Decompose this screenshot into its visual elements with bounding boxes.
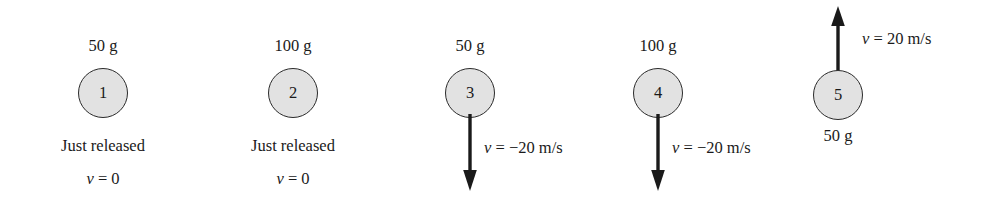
mass-label-2: 100 g <box>274 38 311 55</box>
mass-label-1: 50 g <box>89 38 118 55</box>
velocity-label-1: v = 0 <box>86 171 119 188</box>
ball-circle-5: 5 <box>813 70 863 120</box>
velocity-label-2: v = 0 <box>276 171 309 188</box>
status-label-1: Just released <box>61 138 145 155</box>
ball-number-2: 2 <box>289 85 297 102</box>
ball-circle-1: 1 <box>78 68 128 118</box>
status-label-2: Just released <box>251 138 335 155</box>
velocity-arrow-up-5 <box>829 6 847 74</box>
mass-label-5: 50 g <box>824 128 853 145</box>
ball-number-3: 3 <box>466 85 474 102</box>
velocity-label-4: v = −20 m/s <box>672 140 751 157</box>
velocity-label-5: v = 20 m/s <box>862 31 931 48</box>
ball-circle-4: 4 <box>633 68 683 118</box>
mass-label-4: 100 g <box>639 38 676 55</box>
mass-label-3: 50 g <box>456 38 485 55</box>
ball-number-4: 4 <box>654 85 662 102</box>
ball-circle-2: 2 <box>268 68 318 118</box>
ball-number-1: 1 <box>99 85 107 102</box>
velocity-label-3: v = −20 m/s <box>484 140 563 157</box>
velocity-arrow-down-3 <box>461 114 479 192</box>
ball-number-5: 5 <box>834 87 842 104</box>
ball-circle-3: 3 <box>445 68 495 118</box>
physics-diagram: 50 g 1 Just released v = 0 100 g 2 Just … <box>0 0 988 207</box>
velocity-arrow-down-4 <box>649 114 667 192</box>
